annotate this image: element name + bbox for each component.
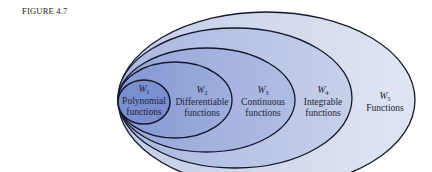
svg-text:functions: functions — [245, 108, 281, 118]
svg-text:functions: functions — [126, 107, 162, 117]
svg-text:Integrable: Integrable — [304, 97, 343, 107]
svg-text:Polynomial: Polynomial — [122, 96, 166, 106]
svg-text:Differentiable: Differentiable — [175, 97, 228, 107]
svg-text:functions: functions — [184, 108, 220, 118]
svg-text:Functions: Functions — [366, 103, 404, 113]
nested-sets-diagram: W1 Polynomial functions W2 Differentiabl… — [0, 0, 432, 172]
svg-text:functions: functions — [305, 108, 341, 118]
svg-text:Continuous: Continuous — [241, 97, 285, 107]
